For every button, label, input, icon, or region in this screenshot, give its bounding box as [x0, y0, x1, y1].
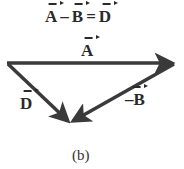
- equation-result-d: D: [99, 8, 111, 25]
- vector-d-label-text: D: [20, 95, 32, 112]
- vector-neg-b-label-text: –B: [125, 91, 145, 108]
- vector-d-arrow: [8, 64, 68, 121]
- vector-a-label-text: A: [81, 42, 93, 59]
- equation-term-a: A: [45, 8, 57, 25]
- equation-term-b: B: [72, 8, 83, 25]
- vector-a-label: A: [81, 42, 93, 59]
- vector-neg-b-arrow: [73, 64, 174, 121]
- vector-subtraction-diagram: A–B=D A D –B (b): [0, 0, 184, 169]
- equation: A–B=D: [45, 8, 111, 25]
- vector-d-label: D: [20, 95, 32, 112]
- equation-equals: =: [86, 7, 96, 26]
- figure-caption: (b): [72, 147, 90, 164]
- vector-neg-b-label: –B: [125, 91, 145, 108]
- equation-minus: –: [60, 7, 69, 26]
